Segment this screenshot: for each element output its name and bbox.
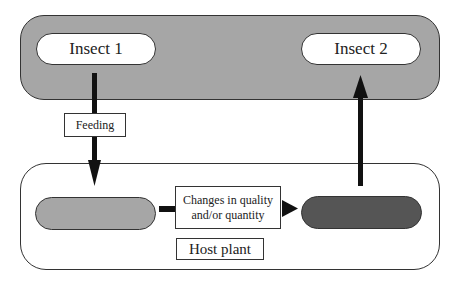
insect2-arrow-shaft bbox=[358, 98, 363, 186]
host-plant-label: Host plant bbox=[189, 241, 251, 258]
changes-label-line1: Changes in quality bbox=[183, 193, 273, 208]
changes-label-box: Changes in quality and/or quantity bbox=[175, 186, 281, 229]
changes-label-line2: and/or quantity bbox=[192, 208, 265, 223]
changes-arrow-left-shaft bbox=[159, 206, 175, 212]
feeding-arrowhead-icon bbox=[88, 160, 101, 186]
feeding-label-box: Feeding bbox=[64, 113, 126, 137]
feeding-label: Feeding bbox=[76, 118, 115, 133]
insect2-arrowhead-icon bbox=[353, 75, 368, 98]
host-plant-label-box: Host plant bbox=[176, 238, 264, 260]
changes-arrowhead-icon bbox=[282, 200, 298, 217]
